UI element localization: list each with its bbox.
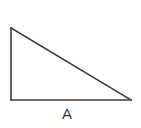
side-label-a: A — [62, 106, 72, 121]
triangle-figure: A — [0, 0, 141, 128]
